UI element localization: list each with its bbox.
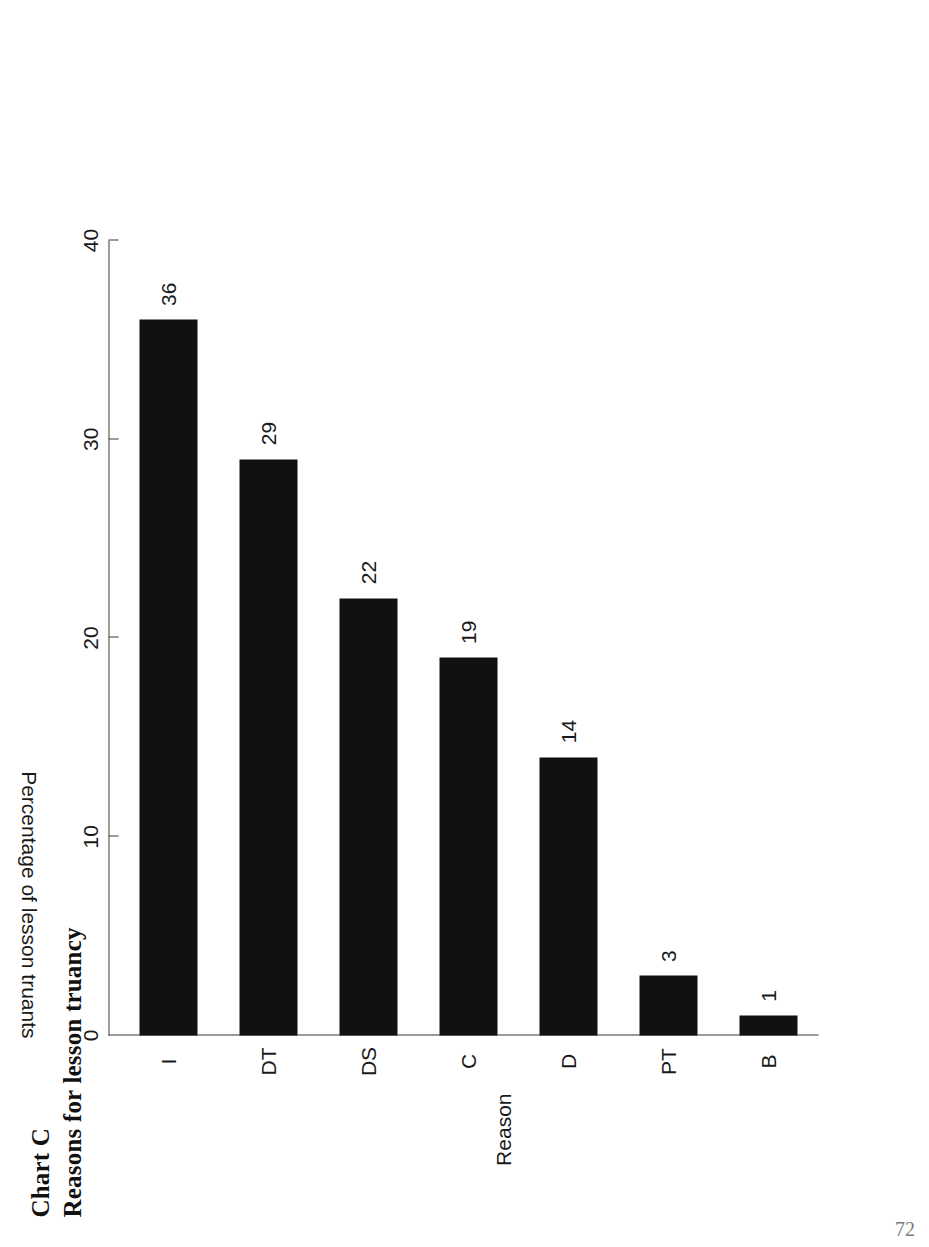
bar-row: 36I <box>139 240 197 1035</box>
rotated-chart-stage: Chart C Reasons for lesson truancy 01020… <box>0 0 929 1247</box>
bar <box>239 459 297 1035</box>
category-axis-label: PT <box>656 1041 680 1081</box>
scanned-page: Chart C Reasons for lesson truancy 01020… <box>0 0 929 1247</box>
bar <box>639 975 697 1035</box>
value-axis-tick-label: 30 <box>78 409 102 469</box>
value-axis-tick-label: 20 <box>78 608 102 668</box>
bar-row: 19C <box>439 240 497 1035</box>
value-axis-title: Percentage of lesson truants <box>16 771 40 1038</box>
category-axis-label: DS <box>356 1041 380 1081</box>
category-axis-label: C <box>456 1041 480 1081</box>
category-axis-label: I <box>156 1041 180 1081</box>
bar <box>439 657 497 1035</box>
bar-row: 22DS <box>339 240 397 1035</box>
category-axis-label: DT <box>256 1041 280 1081</box>
value-axis-tick <box>108 637 118 638</box>
bar-value-label: 1 <box>756 989 780 1001</box>
value-axis-tick-label: 0 <box>78 1005 102 1065</box>
value-axis-tick <box>108 1034 118 1035</box>
value-axis-tick-label: 40 <box>78 210 102 270</box>
bar <box>539 757 597 1035</box>
page-number: 72 <box>895 1218 915 1241</box>
bar <box>139 320 197 1036</box>
category-axis-title: Reason <box>491 1093 515 1165</box>
bar <box>339 598 397 1035</box>
bar-row: 3PT <box>639 240 697 1035</box>
chart-figure: Chart C Reasons for lesson truancy 01020… <box>0 0 929 1247</box>
value-axis-tick <box>108 239 118 240</box>
value-axis-ruler <box>108 240 109 1035</box>
plot-area: 01020304036I29DT22DS19C14D3PT1BReason <box>118 240 818 1035</box>
bar-value-label: 14 <box>556 719 580 742</box>
bar-value-label: 29 <box>256 421 280 444</box>
bar-value-label: 36 <box>156 282 180 305</box>
value-axis-tick <box>108 835 118 836</box>
chart-caption: Reasons for lesson truancy <box>58 927 86 1217</box>
category-axis-label: D <box>556 1041 580 1081</box>
category-axis-label: B <box>756 1041 780 1081</box>
bar-value-label: 3 <box>656 950 680 962</box>
value-axis-tick-label: 10 <box>78 806 102 866</box>
bar-row: 29DT <box>239 240 297 1035</box>
bar-value-label: 22 <box>356 560 380 583</box>
bar-row: 14D <box>539 240 597 1035</box>
value-axis-tick <box>108 438 118 439</box>
bar-row: 1B <box>739 240 797 1035</box>
bar <box>739 1015 797 1035</box>
bar-value-label: 19 <box>456 620 480 643</box>
